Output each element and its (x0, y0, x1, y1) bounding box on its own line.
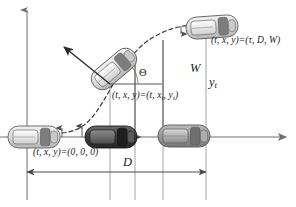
label-mid-coordinate-mid: , y (164, 90, 173, 100)
car-start-left (8, 126, 60, 148)
label-lateral-offset-t-sub: t (215, 80, 218, 90)
diagram-canvas (0, 0, 296, 207)
label-heading-angle: Θ (139, 68, 147, 79)
cars-group (8, 14, 239, 148)
label-longitudinal-distance: D (123, 156, 132, 169)
label-lateral-offset-t: yt (209, 76, 217, 90)
trajectory-group (62, 25, 196, 133)
car-transition (87, 44, 141, 94)
label-mid-coordinate-suffix: ) (175, 90, 178, 100)
trajectory-curve (62, 25, 196, 133)
label-mid-coordinate: (t, x, y)=(t, xt, yt) (112, 91, 178, 101)
car-lane-end (158, 125, 210, 147)
label-lateral-offset-total: W (190, 62, 200, 75)
car-lane-origin (85, 126, 137, 148)
measure-arrows-group (62, 26, 181, 137)
label-origin-coordinate: (t, x, y)=(0, 0, 0) (33, 148, 98, 158)
label-mid-coordinate-prefix: (t, x, y)=(t, x (112, 90, 162, 100)
label-end-coordinate: (t, x, y)=(τ, D, W) (211, 36, 280, 46)
lane-change-trajectory-figure: (t, x, y)=(0, 0, 0) (t, x, y)=(t, xt, yt… (0, 0, 296, 207)
